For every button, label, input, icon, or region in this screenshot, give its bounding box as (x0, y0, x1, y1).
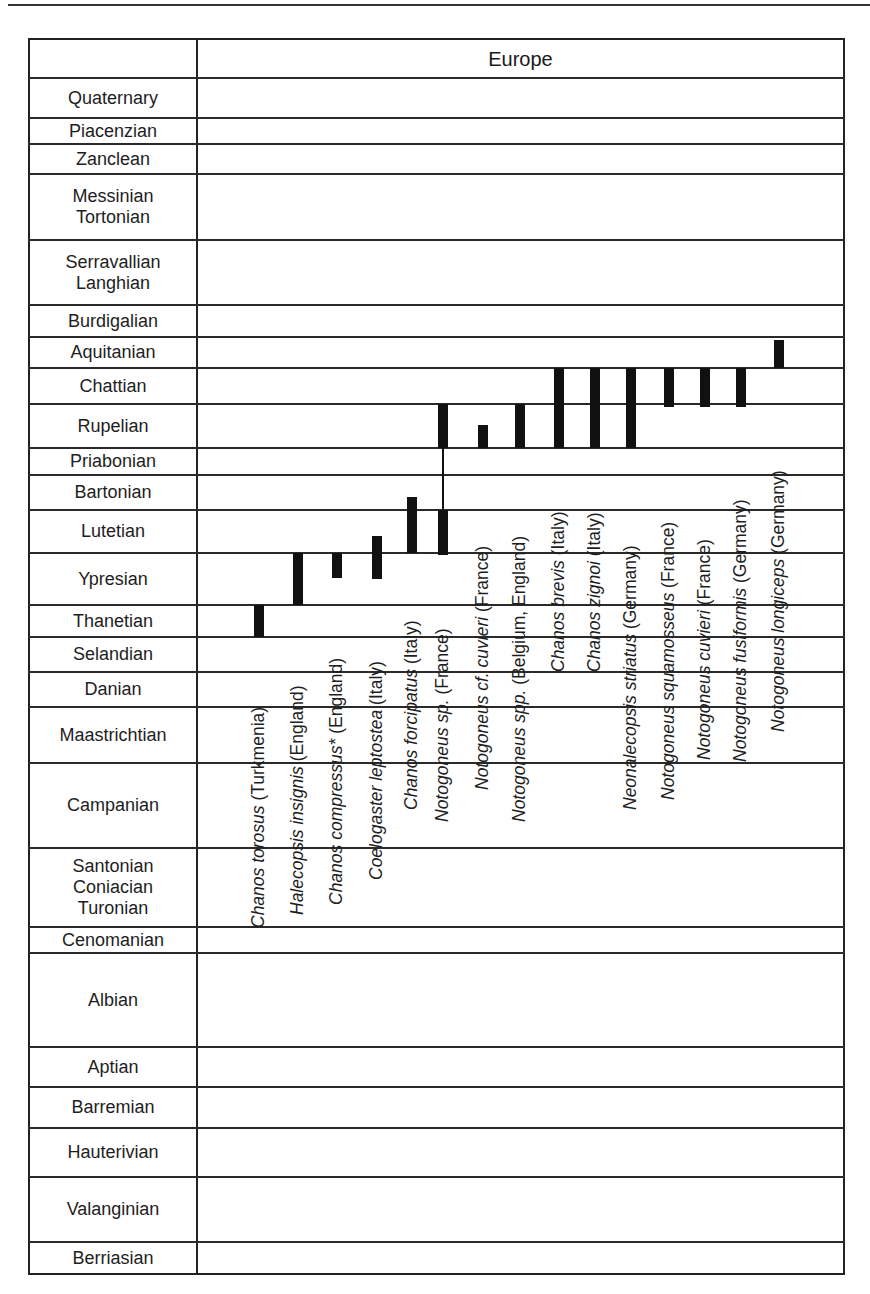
page-top-rule (8, 4, 870, 6)
taxon-name: Coelogaster leptostea (366, 710, 386, 880)
taxon-name: Notogoneus fusiformis (730, 588, 750, 762)
stage-label-line: Berriasian (72, 1248, 153, 1269)
taxon-name: Chanos forcipatus (401, 669, 421, 810)
taxon-name: Notogoneus cuvieri (694, 610, 714, 760)
range-bar (478, 425, 488, 448)
range-bar (700, 368, 710, 407)
stage-label: SantonianConiacianTuronian (30, 848, 196, 927)
range-bar (590, 368, 600, 448)
taxon-name: Notogoneus cf. cuvieri (472, 617, 492, 790)
stage-label-line: Priabonian (70, 451, 156, 472)
taxon-label: Chanos torosus (Turkmenia) (248, 707, 268, 928)
range-bar (407, 497, 417, 553)
stage-label-line: Zanclean (76, 149, 150, 170)
stage-label-line: Serravallian (65, 252, 160, 273)
range-bar (554, 368, 564, 448)
taxon-locality: (France) (658, 522, 678, 593)
stage-label: Selandian (30, 637, 196, 672)
range-connector-line (442, 448, 444, 510)
stage-label-line: Cenomanian (62, 930, 164, 951)
taxon-label: Chanos brevis (Italy) (548, 512, 568, 673)
stage-label: Bartonian (30, 475, 196, 510)
taxon-locality: (England) (326, 658, 346, 739)
stage-label: Ypresian (30, 553, 196, 605)
taxon-locality: (Italy) (366, 661, 386, 710)
taxon-locality: (England) (287, 685, 307, 766)
stage-label: Rupelian (30, 404, 196, 448)
range-bar (372, 536, 382, 579)
stage-label: Chattian (30, 368, 196, 404)
taxon-name: Chanos brevis (548, 560, 568, 672)
stage-label: Aptian (30, 1047, 196, 1087)
taxon-locality: (Italy) (548, 512, 568, 561)
taxon-locality: (Germany) (730, 499, 750, 587)
taxon-label: Halecopsis insignis (England) (287, 685, 307, 915)
range-bar (438, 404, 448, 448)
stage-label-line: Burdigalian (68, 311, 158, 332)
stage-label-line: Thanetian (73, 611, 153, 632)
stage-label-line: Lutetian (81, 521, 145, 542)
range-bar (664, 368, 674, 407)
stage-label-line: Messinian (72, 186, 153, 207)
stage-label-line: Aquitanian (70, 342, 155, 363)
stage-label-line: Selandian (73, 644, 153, 665)
taxon-name: Notogoneus sp. (432, 699, 452, 822)
stage-label-line: Albian (88, 990, 138, 1011)
range-bar (774, 340, 784, 368)
stage-label-line: Santonian (72, 856, 153, 877)
stage-column-divider (196, 38, 198, 1275)
stage-label: Albian (30, 953, 196, 1047)
taxon-name: Chanos zignoi (584, 561, 604, 672)
stage-label-line: Quaternary (68, 88, 158, 109)
stage-label: Priabonian (30, 448, 196, 475)
taxon-name: Chanos compressus* (326, 739, 346, 905)
stage-label-line: Maastrichtian (59, 725, 166, 746)
stage-label-line: Aptian (87, 1057, 138, 1078)
stage-label: Lutetian (30, 510, 196, 553)
taxon-label: Notogoneus longiceps (Germany) (768, 470, 788, 732)
stage-label-line: Barremian (71, 1097, 154, 1118)
taxon-locality: (Germany) (620, 545, 640, 633)
taxon-name: Notogoneus longiceps (768, 559, 788, 732)
stage-label: Burdigalian (30, 305, 196, 337)
stage-label: MessinianTortonian (30, 174, 196, 240)
taxon-locality: (France) (432, 628, 452, 699)
taxon-name: Chanos torosus (248, 805, 268, 928)
stage-label-line: Piacenzian (69, 121, 157, 142)
range-bar (254, 605, 264, 637)
stage-label: Aquitanian (30, 337, 196, 368)
stage-label-line: Bartonian (74, 482, 151, 503)
stage-label: SerravallianLanghian (30, 240, 196, 305)
taxon-label: Chanos forcipatus (Italy) (401, 620, 421, 810)
stage-label-line: Langhian (76, 273, 150, 294)
taxon-label: Notogoneus cf. cuvieri (France) (472, 546, 492, 790)
taxon-locality: (Turkmenia) (248, 707, 268, 806)
range-bar (293, 553, 303, 605)
stage-label-line: Tortonian (76, 207, 150, 228)
range-bar (626, 368, 636, 448)
taxon-label: Notogoneus sp. (France) (432, 628, 452, 822)
stage-label: Piacenzian (30, 118, 196, 144)
range-bar (332, 553, 342, 578)
taxon-label: Notogoneus squamosseus (France) (658, 522, 678, 800)
stage-label: Cenomanian (30, 927, 196, 953)
range-bar (438, 510, 448, 555)
taxon-locality: (Italy) (401, 620, 421, 669)
taxon-label: Notogoneus fusiformis (Germany) (730, 499, 750, 762)
taxon-name: Halecopsis insignis (287, 766, 307, 915)
stage-label-line: Chattian (79, 376, 146, 397)
taxon-name: Notogoneus spp. (509, 690, 529, 822)
taxon-label: Neonalecopsis striatus (Germany) (620, 545, 640, 810)
stage-label-line: Ypresian (78, 569, 148, 590)
stage-label: Berriasian (30, 1242, 196, 1275)
stage-label: Zanclean (30, 144, 196, 174)
stage-label: Quaternary (30, 78, 196, 118)
stage-label: Valanginian (30, 1177, 196, 1242)
taxon-label: Notogoneus cuvieri (France) (694, 539, 714, 760)
stage-label: Thanetian (30, 605, 196, 637)
taxon-label: Notogoneus spp. (Belgium, England) (509, 536, 529, 822)
taxon-label: Coelogaster leptostea (Italy) (366, 661, 386, 880)
stage-label-line: Hauterivian (67, 1142, 158, 1163)
stage-label-line: Valanginian (67, 1199, 160, 1220)
stage-label-line: Campanian (67, 795, 159, 816)
